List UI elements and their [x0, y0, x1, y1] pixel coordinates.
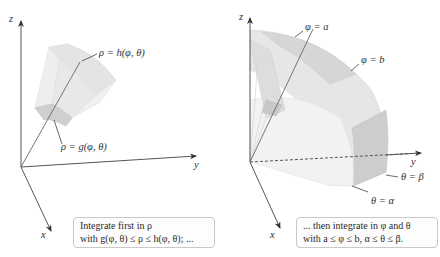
right-caption: ... then integrate in φ and θ with a ≤ φ… — [296, 217, 438, 248]
left-y-axis-label: y — [194, 160, 199, 171]
phi-a-label: φ = a — [305, 22, 328, 33]
inner-surface-label: ρ = g(φ, θ) — [61, 142, 107, 153]
phi-b-label: φ = b — [361, 55, 384, 66]
right-caption-line2: with a ≤ φ ≤ b, α ≤ θ ≤ β. — [303, 233, 431, 246]
left-caption-line2: with g(φ, θ) ≤ ρ ≤ h(φ, θ); ... — [80, 233, 208, 246]
outer-surface-label: ρ = h(φ, θ) — [99, 48, 145, 59]
left-caption-line1: Integrate first in ρ — [80, 220, 208, 233]
right-x-axis-label: x — [270, 230, 275, 241]
theta-alpha-label: θ = α — [371, 196, 394, 207]
right-z-axis-label: z — [239, 12, 243, 23]
theta-beta-label: θ = β — [401, 172, 424, 183]
left-caption: Integrate first in ρ with g(φ, θ) ≤ ρ ≤ … — [73, 217, 215, 248]
right-y-axis-label: y — [411, 157, 416, 168]
left-z-axis-label: z — [9, 14, 13, 25]
left-x-axis-label: x — [41, 230, 46, 241]
right-caption-line1: ... then integrate in φ and θ — [303, 220, 431, 233]
